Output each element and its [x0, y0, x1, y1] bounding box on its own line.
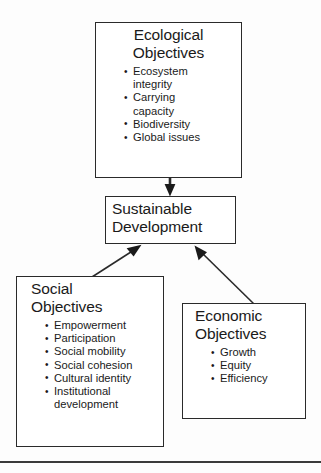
bullet-text: Social cohesion — [54, 359, 132, 371]
arrow-economic-to-sustainable — [195, 246, 255, 305]
list-item: Efficiency — [211, 372, 299, 385]
list-item: Participation — [45, 332, 157, 345]
social-bullet-list: Empowerment Participation Social mobilit… — [45, 319, 157, 411]
social-title: Social Objectives — [23, 280, 157, 315]
bullet-text: Biodiversity — [133, 118, 190, 130]
economic-title: Economic Objectives — [189, 307, 299, 342]
list-item: Cultural identity — [45, 372, 157, 385]
bullet-text: Institutional — [54, 385, 111, 397]
economic-bullet-list: Growth Equity Efficiency — [211, 346, 299, 386]
list-item: Empowerment — [45, 319, 157, 332]
list-item: Social mobility — [45, 345, 157, 358]
list-item: Biodiversity — [124, 118, 235, 131]
economic-title-line2: Objectives — [195, 325, 299, 343]
sustainable-title-line2: Development — [112, 218, 229, 236]
box-sustainable-development: Sustainable Development — [105, 196, 236, 244]
bullet-text-cont: capacity — [133, 105, 235, 118]
bullet-text: Cultural identity — [54, 372, 131, 384]
bullet-text: Global issues — [133, 131, 200, 143]
bullet-text: Growth — [220, 346, 256, 358]
list-item: Global issues — [124, 131, 235, 144]
list-item: Social cohesion — [45, 359, 157, 372]
bullet-text: Social mobility — [54, 345, 126, 357]
footer-divider — [0, 461, 321, 463]
list-item: Institutional development — [45, 385, 157, 411]
ecological-bullet-list: Ecosystem integrity Carrying capacity Bi… — [124, 65, 235, 144]
bullet-text-cont: development — [54, 398, 157, 411]
arrow-social-to-sustainable — [92, 245, 142, 277]
sustainable-title: Sustainable Development — [112, 200, 229, 235]
social-title-line1: Social — [31, 280, 157, 298]
list-item: Growth — [211, 346, 299, 359]
diagram-canvas: Ecological Objectives Ecosystem integrit… — [0, 0, 321, 473]
ecological-title-line2: Objectives — [102, 44, 235, 62]
box-social-objectives: Social Objectives Empowerment Participat… — [16, 276, 164, 447]
box-ecological-objectives: Ecological Objectives Ecosystem integrit… — [95, 22, 242, 178]
bullet-text: Empowerment — [54, 319, 126, 331]
social-title-line2: Objectives — [31, 298, 157, 316]
economic-title-line1: Economic — [195, 307, 299, 325]
bullet-text-cont: integrity — [133, 78, 235, 91]
list-item: Equity — [211, 359, 299, 372]
bullet-text: Participation — [54, 332, 116, 344]
sustainable-title-line1: Sustainable — [112, 200, 229, 218]
bullet-text: Efficiency — [220, 372, 268, 384]
bullet-text: Ecosystem — [133, 65, 188, 77]
list-item: Carrying capacity — [124, 91, 235, 117]
bullet-text: Carrying — [133, 91, 175, 103]
ecological-title: Ecological Objectives — [102, 26, 235, 61]
list-item: Ecosystem integrity — [124, 65, 235, 91]
ecological-title-line1: Ecological — [102, 26, 235, 44]
box-economic-objectives: Economic Objectives Growth Equity Effici… — [182, 303, 306, 419]
bullet-text: Equity — [220, 359, 251, 371]
arrow-ecological-to-sustainable — [165, 178, 176, 197]
